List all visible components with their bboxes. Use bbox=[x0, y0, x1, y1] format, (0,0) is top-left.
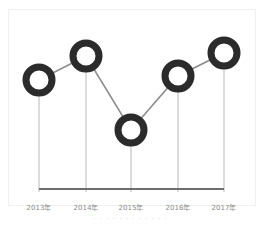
line-chart bbox=[0, 0, 261, 225]
x-tick-label: 2017年 bbox=[212, 202, 237, 212]
data-point-2014 bbox=[73, 43, 99, 69]
data-point-2016 bbox=[165, 63, 191, 89]
x-tick-label: 2015年 bbox=[119, 202, 144, 212]
x-tick-label: 2014年 bbox=[74, 202, 99, 212]
data-point-2017 bbox=[211, 40, 237, 66]
chart-caption: · · · · · · · · · · · · bbox=[0, 215, 261, 223]
data-point-2015 bbox=[118, 117, 144, 143]
data-point-2013 bbox=[26, 67, 52, 93]
x-tick-label: 2013年 bbox=[27, 202, 52, 212]
x-tick-label: 2016年 bbox=[166, 202, 191, 212]
